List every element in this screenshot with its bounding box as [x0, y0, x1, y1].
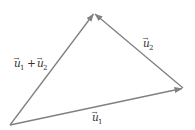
label-u1: → u 1: [92, 109, 103, 126]
vector-triangle-diagram: → u 2 → u 1 → u 1 + → u 2: [0, 0, 195, 130]
svg-text:1: 1: [98, 118, 102, 126]
label-u2: → u 2: [143, 35, 154, 52]
svg-text:2: 2: [43, 64, 47, 72]
svg-text:2: 2: [149, 44, 153, 52]
svg-text:1: 1: [20, 64, 24, 72]
vector-u2-arrow: [95, 14, 183, 88]
label-u1-plus-u2: → u 1 + → u 2: [14, 55, 48, 72]
svg-text:+: +: [27, 57, 36, 69]
